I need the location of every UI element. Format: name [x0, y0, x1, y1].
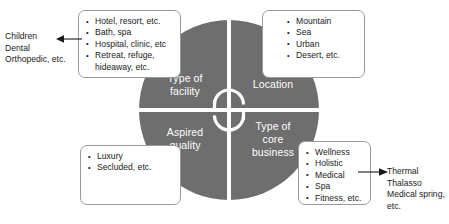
list-item: Wellness: [306, 147, 364, 158]
list-item: Secluded, etc.: [88, 162, 174, 173]
quadrant-label-text: Type of core business: [252, 120, 294, 158]
list-item: Fitness, etc.: [306, 193, 364, 204]
callout-box-aspired-quality: Luxury Secluded, etc.: [80, 145, 181, 205]
list-item: Retreat, refuge,: [86, 50, 174, 61]
annotation-right-text: Thermal Thalasso Medical spring, etc.: [387, 166, 445, 212]
list-item: Hospital, clinic, etc: [86, 39, 174, 50]
list-item: Desert, etc.: [287, 50, 358, 61]
list-item: Urban: [287, 39, 358, 50]
core-business-list: Wellness Holistic Medical Spa Fitness, e…: [306, 147, 364, 204]
facility-list: Hotel, resort, etc. Bath, spa Hospital, …: [86, 16, 174, 73]
list-item: Spa: [306, 181, 364, 192]
list-item: Medical: [306, 170, 364, 181]
diagram-canvas: Type of facility Location Aspired qualit…: [0, 0, 449, 224]
cycle-arrows-icon: [207, 88, 251, 132]
list-item: Luxury: [88, 151, 174, 162]
list-item: Mountain: [287, 16, 358, 27]
list-item: Hotel, resort, etc.: [86, 16, 174, 27]
list-item: Holistic: [306, 158, 364, 169]
list-item: Bath, spa: [86, 27, 174, 38]
list-item-continuation: hideaway, etc.: [86, 62, 174, 73]
location-list: Mountain Sea Urban Desert, etc.: [287, 16, 358, 62]
quality-list: Luxury Secluded, etc.: [88, 151, 174, 174]
callout-box-location: Mountain Sea Urban Desert, etc.: [262, 10, 365, 78]
connector-arrow-left-icon: [56, 32, 82, 46]
list-item: Sea: [287, 27, 358, 38]
connector-arrow-right-icon: [358, 165, 388, 179]
quadrant-label-text: Location: [253, 78, 294, 90]
callout-box-facility: Hotel, resort, etc. Bath, spa Hospital, …: [78, 10, 181, 78]
